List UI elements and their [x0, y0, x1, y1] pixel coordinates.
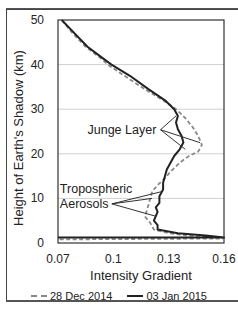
annotation-tropospheric: Tropospheric [60, 182, 133, 196]
legend-label: 28 Dec 2014 [50, 290, 112, 302]
y-tick-label: 50 [31, 13, 45, 27]
annotation-pointer-line [112, 204, 156, 216]
chart-svg: 01020304050 0.070.10.130.16 Junge LayerT… [0, 0, 238, 317]
x-tick-label: 0.1 [105, 252, 122, 266]
y-tick-label: 30 [31, 102, 45, 116]
legend-item-03-jan-2015: 03 Jan 2015 [127, 290, 207, 302]
x-axis-ticks: 0.070.10.130.16 [46, 252, 236, 266]
legend: 28 Dec 2014 03 Jan 2015 [0, 287, 238, 302]
y-axis-label: Height of Earth's Shadow (km) [11, 50, 26, 226]
legend-label: 03 Jan 2015 [146, 290, 207, 302]
x-tick-label: 0.13 [157, 252, 181, 266]
annotation-pointer-line [161, 116, 177, 130]
annotation-aerosols: Aerosols [60, 197, 109, 211]
legend-item-28-dec-2014: 28 Dec 2014 [31, 290, 112, 302]
y-tick-label: 10 [31, 191, 45, 205]
x-tick-label: 0.07 [46, 252, 70, 266]
solid-line-swatch-icon [127, 295, 143, 297]
x-axis-label: Intensity Gradient [90, 268, 192, 283]
y-tick-label: 40 [31, 58, 45, 72]
y-tick-label: 0 [37, 236, 44, 250]
y-tick-label: 20 [31, 147, 45, 161]
dashed-line-swatch-icon [31, 295, 47, 297]
x-tick-label: 0.16 [212, 252, 236, 266]
y-axis-ticks: 01020304050 [31, 13, 45, 250]
annotation-junge-layer: Junge Layer [88, 123, 157, 137]
